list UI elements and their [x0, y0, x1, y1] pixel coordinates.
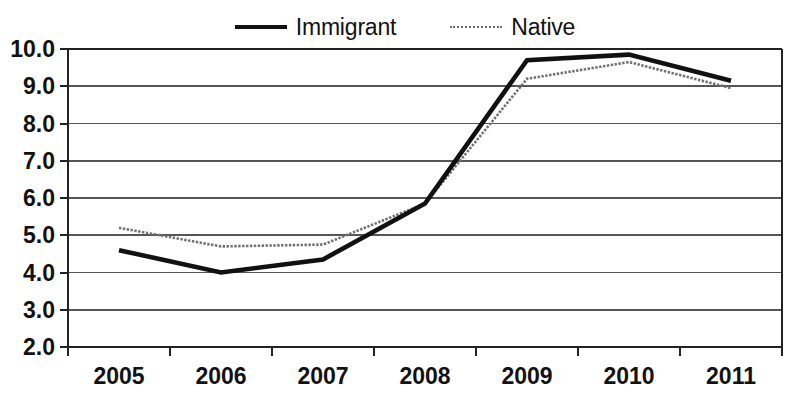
- x-axis-label: 2007: [297, 363, 348, 389]
- y-axis-label: 4.0: [23, 260, 55, 286]
- y-axis-tick-labels: 10.09.08.07.06.05.04.03.02.0: [10, 36, 55, 360]
- y-axis-label: 10.0: [10, 36, 55, 62]
- series-line-immigrant: [119, 55, 731, 273]
- x-axis-tick-labels: 2005200620072008200920102011: [93, 363, 756, 389]
- x-axis-label: 2010: [603, 363, 654, 389]
- y-axis-label: 7.0: [23, 148, 55, 174]
- y-axis-label: 6.0: [23, 185, 55, 211]
- y-axis-label: 8.0: [23, 111, 55, 137]
- x-axis-label: 2008: [399, 363, 450, 389]
- plot-area-wrapper: 10.09.08.07.06.05.04.03.02.0 20052006200…: [0, 0, 810, 399]
- x-axis-label: 2009: [501, 363, 552, 389]
- x-tick-marks: [68, 347, 782, 356]
- y-axis-label: 9.0: [23, 73, 55, 99]
- x-axis-label: 2006: [195, 363, 246, 389]
- y-axis-label: 3.0: [23, 297, 55, 323]
- y-gridlines: [68, 49, 782, 347]
- unemployment-rate-line-chart: Immigrant Native 10.09.08.07.06.05.04.03…: [0, 0, 810, 399]
- y-axis-label: 5.0: [23, 222, 55, 248]
- data-series-layer: [119, 55, 731, 273]
- series-line-native: [119, 62, 731, 246]
- x-axis-label: 2005: [93, 363, 144, 389]
- x-axis-label: 2011: [706, 363, 756, 389]
- y-axis-label: 2.0: [23, 334, 55, 360]
- plot-svg: 10.09.08.07.06.05.04.03.02.0 20052006200…: [0, 0, 810, 399]
